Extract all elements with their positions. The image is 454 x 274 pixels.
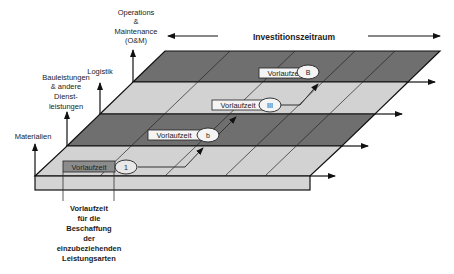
svg-text:für die: für die	[78, 214, 101, 223]
label-materialien: Materialien	[15, 132, 52, 141]
lead-time-iii: Vorlaufzeit III	[212, 98, 281, 112]
svg-text:Vorlaufzeit: Vorlaufzeit	[156, 131, 192, 140]
svg-text:b: b	[206, 132, 210, 139]
svg-text:&: &	[133, 17, 138, 26]
svg-text:B: B	[306, 69, 311, 76]
svg-text:Vorlaufzeit: Vorlaufzeit	[71, 163, 107, 172]
svg-text:1: 1	[124, 164, 128, 171]
svg-text:& andere: & andere	[51, 82, 81, 91]
svg-text:Operations: Operations	[118, 8, 155, 17]
svg-text:Dienst-: Dienst-	[54, 92, 78, 101]
svg-text:einzubeziehenden: einzubeziehenden	[57, 244, 122, 253]
label-bau: Bauleistungen & andere Dienst- leistunge…	[42, 73, 90, 111]
procurement-lead-time-diagram: Investitionszeitraum Vorlaufzeit 1 Vorla…	[0, 0, 454, 274]
front-face	[35, 176, 310, 190]
svg-text:Leistungsarten: Leistungsarten	[62, 254, 116, 263]
svg-text:Maintenance: Maintenance	[115, 27, 158, 36]
svg-text:Beschaffung: Beschaffung	[66, 224, 112, 233]
bottom-caption: Vorlaufzeit für die Beschaffung der einz…	[57, 204, 122, 263]
label-logistik: Logistik	[87, 67, 113, 76]
investment-period-title: Investitionszeitraum	[253, 32, 336, 42]
svg-text:(O&M): (O&M)	[125, 36, 148, 45]
label-om: Operations & Maintenance (O&M)	[115, 8, 158, 45]
svg-text:Vorlaufzeit: Vorlaufzeit	[220, 101, 256, 110]
svg-text:Vorlaufzeit: Vorlaufzeit	[70, 204, 108, 213]
svg-text:leistungen: leistungen	[49, 102, 83, 111]
svg-text:III: III	[267, 102, 273, 109]
band-bau	[67, 114, 375, 146]
svg-text:Bauleistungen: Bauleistungen	[42, 73, 90, 82]
lead-time-1: Vorlaufzeit 1	[63, 160, 137, 174]
lead-time-b: Vorlaufzeit b	[148, 128, 219, 142]
svg-text:der: der	[83, 234, 95, 243]
